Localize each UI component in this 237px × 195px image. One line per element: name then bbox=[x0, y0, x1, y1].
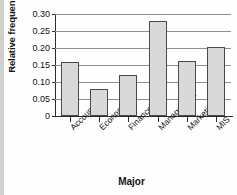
plot-area: 00.050.100.150.200.250.30AccountingEcono… bbox=[55, 14, 231, 116]
bar bbox=[149, 21, 167, 116]
bar bbox=[178, 61, 196, 116]
bar bbox=[207, 47, 225, 116]
y-tick-label: 0.30 bbox=[32, 9, 50, 19]
gridline bbox=[55, 31, 231, 32]
y-tick-mark bbox=[52, 14, 55, 15]
gridline bbox=[55, 65, 231, 66]
gridline bbox=[55, 82, 231, 83]
y-tick-mark bbox=[52, 48, 55, 49]
gridline bbox=[55, 48, 231, 49]
bar bbox=[90, 89, 108, 116]
y-tick-label: 0 bbox=[45, 111, 50, 121]
y-tick-mark bbox=[52, 82, 55, 83]
y-tick-mark bbox=[52, 99, 55, 100]
y-tick-mark bbox=[52, 65, 55, 66]
y-tick-mark bbox=[52, 31, 55, 32]
y-axis-title: Relative frequency bbox=[6, 0, 17, 87]
bar-chart-figure: Relative frequency 00.050.100.150.200.25… bbox=[0, 0, 237, 195]
y-tick-label: 0.10 bbox=[32, 77, 50, 87]
x-axis-title: Major bbox=[0, 176, 237, 187]
y-tick-label: 0.05 bbox=[32, 94, 50, 104]
left-edge-band bbox=[0, 0, 4, 195]
gridline bbox=[55, 14, 231, 15]
y-tick-label: 0.20 bbox=[32, 43, 50, 53]
y-tick-label: 0.25 bbox=[32, 26, 50, 36]
gridline bbox=[55, 99, 231, 100]
bar bbox=[61, 62, 79, 116]
y-tick-label: 0.15 bbox=[32, 60, 50, 70]
bar bbox=[119, 75, 137, 116]
y-tick-mark bbox=[52, 116, 55, 117]
x-axis-title-text: Major bbox=[92, 176, 145, 187]
